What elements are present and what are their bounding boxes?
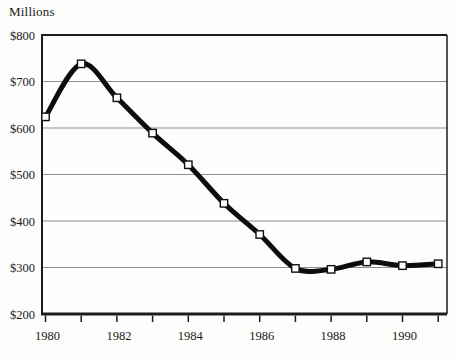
data-line <box>46 64 439 272</box>
data-point-marker <box>435 260 442 267</box>
data-point-marker <box>42 113 49 120</box>
data-point-marker <box>113 94 120 101</box>
x-tick-label: 1984 <box>178 329 204 343</box>
y-tick-label: $400 <box>10 215 35 229</box>
x-tick-label: 1986 <box>249 329 274 343</box>
data-point-marker <box>399 262 406 269</box>
data-point-marker <box>149 129 156 136</box>
x-tick-label: 1988 <box>321 329 346 343</box>
data-point-marker <box>220 200 227 207</box>
data-point-marker <box>185 161 192 168</box>
y-tick-label: $800 <box>10 29 35 43</box>
data-point-marker <box>256 231 263 238</box>
data-point-marker <box>292 265 299 272</box>
data-point-marker <box>78 60 85 67</box>
y-tick-label: $200 <box>10 308 35 322</box>
data-point-marker <box>327 266 334 273</box>
line-chart-canvas: $800$700$600$500$400$300$200198019821984… <box>0 0 456 356</box>
y-tick-label: $300 <box>10 261 35 275</box>
chart-figure: Millions $800$700$600$500$400$300$200198… <box>0 0 456 356</box>
y-tick-label: $600 <box>10 122 35 136</box>
x-tick-label: 1982 <box>106 329 131 343</box>
x-tick-label: 1990 <box>392 329 417 343</box>
y-tick-label: $500 <box>10 168 35 182</box>
y-tick-label: $700 <box>10 75 35 89</box>
x-tick-label: 1980 <box>35 329 60 343</box>
data-point-marker <box>363 258 370 265</box>
